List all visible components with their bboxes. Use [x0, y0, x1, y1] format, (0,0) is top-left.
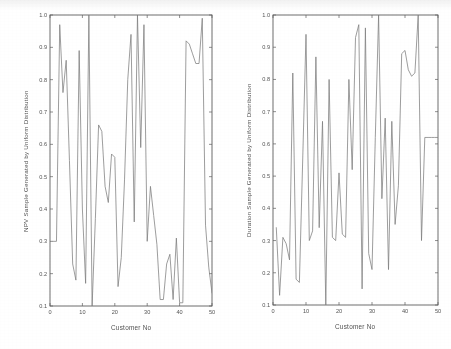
figure-container: 0.10.20.30.40.50.60.70.80.91.00102030405…	[0, 0, 451, 349]
y-tick-label: 0.4	[262, 205, 270, 211]
x-tick-label: 40	[176, 309, 182, 315]
x-tick-label: 50	[434, 308, 440, 314]
y-tick-label: 0.3	[262, 238, 270, 244]
y-tick-label: 0.6	[39, 141, 47, 147]
x-tick-label: 20	[335, 308, 341, 314]
y-tick-label: 0.5	[39, 174, 47, 180]
y-tick-label: 0.2	[262, 270, 270, 276]
npv-y-axis-label: NPV Sample Generated by Uniform Distribu…	[22, 90, 29, 232]
y-tick-label: 1.0	[262, 12, 270, 18]
chart-panel-npv: 0.10.20.30.40.50.60.70.80.91.00102030405…	[0, 0, 226, 349]
y-tick-label: 1.0	[39, 12, 47, 18]
x-tick-label: 30	[368, 308, 374, 314]
x-tick-label: 20	[112, 309, 118, 315]
duration-plot-svg: 0.10.20.30.40.50.60.70.80.91.00102030405…	[226, 0, 451, 349]
npv-x-axis-label: Customer No	[111, 324, 151, 331]
x-tick-label: 30	[144, 309, 150, 315]
y-tick-label: 0.3	[39, 238, 47, 244]
y-tick-label: 0.2	[39, 271, 47, 277]
x-tick-label: 10	[302, 308, 308, 314]
y-tick-label: 0.9	[39, 44, 47, 50]
y-tick-label: 0.8	[39, 77, 47, 83]
chart-panel-duration: 0.10.20.30.40.50.60.70.80.91.00102030405…	[226, 0, 451, 349]
y-tick-label: 0.6	[262, 141, 270, 147]
y-tick-label: 0.4	[39, 206, 47, 212]
duration-x-axis-label: Customer No	[335, 323, 375, 330]
x-tick-label: 40	[401, 308, 407, 314]
y-tick-label: 0.9	[262, 44, 270, 50]
y-tick-label: 0.5	[262, 173, 270, 179]
y-tick-label: 0.1	[39, 303, 47, 309]
y-tick-label: 0.7	[262, 109, 270, 115]
y-tick-label: 0.8	[262, 76, 270, 82]
data-series-line	[53, 15, 212, 306]
x-tick-label: 10	[79, 309, 85, 315]
y-tick-label: 0.7	[39, 109, 47, 115]
x-tick-label: 50	[209, 309, 215, 315]
x-tick-label: 0	[48, 309, 51, 315]
x-tick-label: 0	[271, 308, 274, 314]
duration-y-axis-label: Duration Sample Generated by Uniform Dis…	[245, 83, 252, 237]
data-series-line	[276, 15, 438, 305]
y-tick-label: 0.1	[262, 302, 270, 308]
npv-plot-svg: 0.10.20.30.40.50.60.70.80.91.00102030405…	[0, 0, 226, 349]
